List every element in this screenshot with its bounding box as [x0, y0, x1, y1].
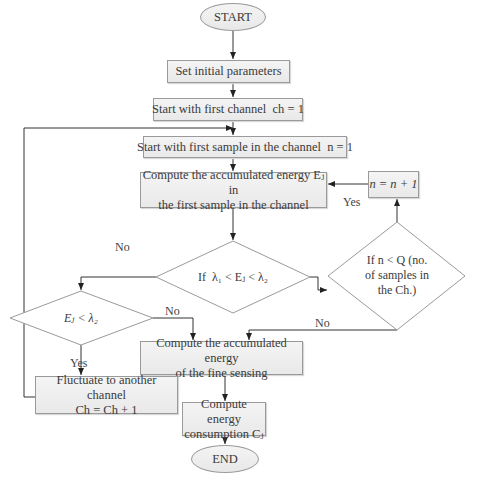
start-node: START — [200, 3, 266, 31]
set-initial-parameters-text: Set initial parameters — [175, 64, 281, 79]
decision-nq-text-1: If n < Q (no. — [367, 253, 427, 268]
increment-n-box: n = n + 1 — [368, 171, 419, 198]
end-node: END — [191, 445, 259, 473]
set-initial-parameters-box: Set initial parameters — [167, 60, 290, 83]
fine-sensing-text-2: of the fine sensing — [176, 366, 268, 381]
no-label-lambda: No — [115, 240, 130, 255]
end-label: END — [212, 452, 238, 467]
first-channel-text: Start with first channel ch = 1 — [152, 102, 304, 117]
no-label-nq: No — [315, 316, 330, 331]
decision-lambda-text: If λ₁ < Eⱼ < λ₂ — [198, 270, 268, 285]
fluctuate-text-1: Fluctuate to another channel — [36, 373, 177, 403]
first-sample-text: Start with first sample in the channel n… — [137, 140, 353, 155]
yes-label-ej: Yes — [70, 356, 87, 371]
increment-n-text: n = n + 1 — [369, 177, 417, 192]
energy-consumption-box: Compute energy consumption Cⱼ — [182, 402, 266, 436]
compute-ej-box: Compute the accumulated energy Eⱼ in the… — [140, 172, 327, 208]
start-label: START — [214, 10, 252, 25]
consumption-text-2: consumption Cⱼ — [184, 427, 263, 442]
compute-ej-text-1: Compute the accumulated energy Eⱼ in — [141, 168, 326, 198]
decision-ej-text: Eⱼ < λ₂ — [64, 311, 98, 326]
compute-ej-text-2: the first sample in the channel — [158, 198, 308, 213]
fine-sensing-box: Compute the accumulated energy of the fi… — [140, 341, 303, 375]
decision-ej: Eⱼ < λ₂ — [40, 309, 122, 327]
decision-nq-text-2: of samples in — [365, 268, 429, 283]
fine-sensing-text-1: Compute the accumulated energy — [141, 336, 302, 366]
no-label-ej: No — [165, 304, 180, 319]
fluctuate-text-2: Ch = Ch + 1 — [75, 403, 137, 418]
first-channel-box: Start with first channel ch = 1 — [153, 98, 303, 121]
fluctuate-channel-box: Fluctuate to another channel Ch = Ch + 1 — [35, 376, 178, 414]
consumption-text-1: Compute energy — [183, 397, 265, 427]
first-sample-box: Start with first sample in the channel n… — [143, 136, 347, 158]
decision-nq-text-3: the Ch.) — [378, 283, 417, 298]
decision-nq: If n < Q (no. of samples in the Ch.) — [345, 250, 449, 300]
yes-label-loop: Yes — [343, 195, 360, 210]
decision-lambda: If λ₁ < Eⱼ < λ₂ — [176, 268, 290, 286]
